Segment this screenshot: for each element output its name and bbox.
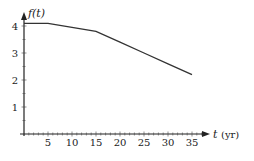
x-tick-label: 30 <box>162 137 175 148</box>
chart: 5101520253035 1234 f(t) t (yr) <box>0 0 254 161</box>
x-tick-label: 15 <box>90 137 103 148</box>
x-axis-label: t <box>213 128 218 141</box>
data-line <box>24 23 192 74</box>
y-tick-label: 2 <box>12 75 18 86</box>
x-tick-label: 10 <box>66 137 79 148</box>
x-tick-label: 5 <box>45 137 51 148</box>
x-tick-label: 35 <box>186 137 199 148</box>
x-tick-label: 25 <box>138 137 151 148</box>
y-axis-label: f(t) <box>27 7 45 20</box>
y-tick-label: 1 <box>12 102 18 113</box>
x-tick-labels: 5101520253035 <box>45 137 199 148</box>
y-axis-arrow-icon <box>21 12 27 20</box>
x-axis-arrow-icon <box>202 131 210 137</box>
y-tick-labels: 1234 <box>12 21 18 113</box>
y-tick-label: 4 <box>12 21 18 32</box>
x-axis-unit: (yr) <box>221 129 239 140</box>
x-tick-label: 20 <box>114 137 127 148</box>
y-tick-label: 3 <box>12 48 18 59</box>
